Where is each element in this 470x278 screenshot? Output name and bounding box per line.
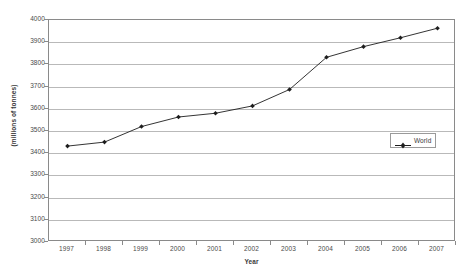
y-axis-tick-label: 3100 xyxy=(3,215,45,222)
y-axis-tick-mark xyxy=(44,130,48,131)
y-axis-tick-label: 3000 xyxy=(3,237,45,244)
x-axis-tick-mark xyxy=(196,241,197,245)
y-axis-tick-mark xyxy=(44,219,48,220)
x-axis: 1997199819992000200120022003200420052006… xyxy=(48,245,455,257)
data-point-marker xyxy=(65,144,70,149)
x-axis-tick-label: 2005 xyxy=(343,245,383,253)
x-axis-tick-label: 2000 xyxy=(158,245,198,253)
data-point-marker xyxy=(139,124,144,129)
y-axis-title: (millions of tonnes) xyxy=(10,71,17,161)
x-axis-tick-label: 1997 xyxy=(47,245,87,253)
y-axis-tick-mark xyxy=(44,241,48,242)
x-axis-tick-mark xyxy=(85,241,86,245)
data-point-marker xyxy=(250,104,255,109)
data-point-marker xyxy=(213,111,218,116)
legend-marker-icon xyxy=(395,136,411,145)
y-axis-tick-mark xyxy=(44,86,48,87)
x-axis-tick-mark xyxy=(270,241,271,245)
y-axis-tick-mark xyxy=(44,174,48,175)
line-chart: 3000310032003300340035003600370038003900… xyxy=(0,0,470,278)
data-point-marker xyxy=(102,140,107,145)
data-point-marker xyxy=(398,35,403,40)
y-axis-tick-label: 4000 xyxy=(3,15,45,22)
y-axis-tick-mark xyxy=(44,63,48,64)
x-axis-tick-mark xyxy=(418,241,419,245)
x-axis-tick-label: 2001 xyxy=(195,245,235,253)
x-axis-tick-label: 1998 xyxy=(84,245,124,253)
x-axis-title: Year xyxy=(48,258,455,265)
y-axis-tick-label: 3900 xyxy=(3,37,45,44)
y-axis-tick-label: 3300 xyxy=(3,170,45,177)
y-axis-tick-mark xyxy=(44,197,48,198)
x-axis-tick-mark xyxy=(159,241,160,245)
x-axis-tick-mark xyxy=(307,241,308,245)
y-axis-tick-mark xyxy=(44,41,48,42)
x-axis-tick-mark xyxy=(344,241,345,245)
y-axis-tick-mark xyxy=(44,152,48,153)
x-axis-tick-label: 2007 xyxy=(417,245,457,253)
series-line xyxy=(68,28,438,146)
legend: World xyxy=(390,133,436,148)
y-axis-tick-label: 3200 xyxy=(3,193,45,200)
x-axis-tick-label: 2003 xyxy=(269,245,309,253)
x-axis-tick-mark xyxy=(455,241,456,245)
x-axis-tick-mark xyxy=(233,241,234,245)
data-point-marker xyxy=(361,44,366,49)
x-axis-tick-label: 2002 xyxy=(232,245,272,253)
plot-area xyxy=(48,19,455,241)
x-axis-tick-label: 2006 xyxy=(380,245,420,253)
data-point-marker xyxy=(435,26,440,31)
x-axis-tick-mark xyxy=(122,241,123,245)
y-axis-tick-mark xyxy=(44,108,48,109)
legend-label: World xyxy=(414,137,431,145)
series-world xyxy=(49,20,456,242)
data-point-marker xyxy=(176,115,181,120)
y-axis-tick-mark xyxy=(44,19,48,20)
x-axis-tick-mark xyxy=(381,241,382,245)
y-axis-tick-label: 3800 xyxy=(3,59,45,66)
x-axis-tick-label: 1999 xyxy=(121,245,161,253)
x-axis-tick-label: 2004 xyxy=(306,245,346,253)
y-axis: 3000310032003300340035003600370038003900… xyxy=(0,0,45,278)
